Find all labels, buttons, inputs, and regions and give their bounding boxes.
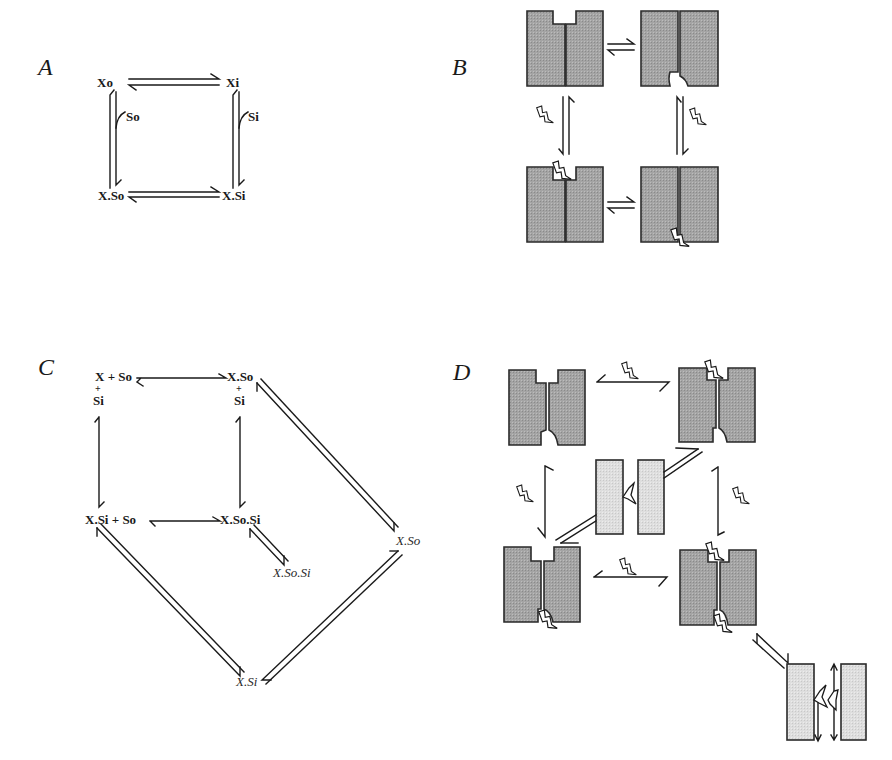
- arrow-xi-xsi: [233, 90, 248, 188]
- arrow-c-xsi-to-inactive: [97, 524, 244, 676]
- arrow-b-bottom: [608, 197, 634, 213]
- arrow-xso-xsi: [129, 187, 219, 202]
- arrow-c-mid: [236, 417, 245, 507]
- label-so: So: [126, 109, 140, 124]
- channel-outer-bound: [679, 360, 755, 442]
- label-si: Si: [234, 393, 245, 408]
- state-x-so: X.So: [98, 188, 124, 203]
- arrow-d-outer-to-pore: [664, 448, 702, 478]
- state-xi: Xi: [226, 75, 239, 90]
- state-x-plus-so: X + So: [95, 369, 132, 384]
- arrow-d-top: [597, 362, 669, 391]
- panel-label-c: C: [38, 354, 55, 380]
- substrate-icon: [537, 106, 554, 123]
- state-x-si-plus-so: X.Si + So: [85, 512, 136, 527]
- arrow-d-right: [712, 467, 749, 535]
- arrow-d-dual-to-dissociated: [753, 634, 788, 668]
- panel-c: C X + So + Si X.So + Si X.Si + So X.So.S…: [38, 354, 421, 689]
- transporter-inward-bound: [641, 167, 718, 246]
- state-xo: Xo: [97, 75, 113, 90]
- panel-a: A Xo Xi X.So X.Si So Si: [36, 54, 259, 203]
- transporter-inward-open: [641, 11, 718, 86]
- arrow-c-top: [137, 374, 226, 386]
- arrow-c-bottom: [150, 517, 220, 526]
- transporter-outward-open: [527, 11, 603, 86]
- substrate-icon: [623, 483, 636, 504]
- label-si: Si: [248, 109, 259, 124]
- channel-dissociated: [787, 664, 866, 741]
- state-x-so-si-inactive: X.So.Si: [272, 565, 311, 580]
- transporter-outward-bound: [527, 161, 603, 242]
- state-x-so: X.So: [227, 369, 253, 384]
- panel-label-b: B: [452, 54, 467, 80]
- substrate-icon: [733, 487, 750, 504]
- channel-empty-gated: [509, 370, 585, 445]
- substrate-icon: [553, 161, 571, 179]
- substrate-icon: [814, 685, 827, 707]
- substrate-icon: [828, 690, 838, 710]
- substrate-icon: [517, 485, 534, 502]
- arrow-b-top: [608, 39, 634, 55]
- arrow-c-xsosi-to-inactive: [250, 525, 288, 565]
- arrow-xo-xso: [110, 90, 125, 188]
- panel-d: D: [452, 359, 866, 741]
- channel-dual-bound: [680, 542, 756, 632]
- arrow-d-bottom: [594, 558, 667, 586]
- panel-label-d: D: [452, 359, 470, 385]
- state-x-so-inactive: X.So: [395, 533, 421, 548]
- panel-label-a: A: [36, 54, 53, 80]
- state-x-si-inactive: X.Si: [235, 674, 258, 689]
- state-x-si: X.Si: [222, 188, 246, 203]
- label-si: Si: [93, 393, 104, 408]
- figure-canvas: A Xo Xi X.So X.Si So Si B: [0, 0, 892, 760]
- arrow-b-left: [537, 97, 574, 154]
- arrow-c-xso-to-inactive: [257, 379, 398, 531]
- substrate-icon: [622, 362, 639, 379]
- arrow-c-left: [95, 417, 104, 507]
- arrow-d-left: [517, 466, 553, 537]
- panel-b: B: [452, 11, 718, 246]
- channel-inner-bound: [504, 547, 580, 628]
- arrow-b-right: [677, 97, 706, 154]
- arrow-d-pore-to-inner: [556, 515, 596, 543]
- channel-open-pore: [596, 460, 664, 534]
- arrow-xo-xi: [129, 74, 219, 90]
- substrate-icon: [620, 558, 637, 575]
- substrate-icon: [690, 108, 707, 125]
